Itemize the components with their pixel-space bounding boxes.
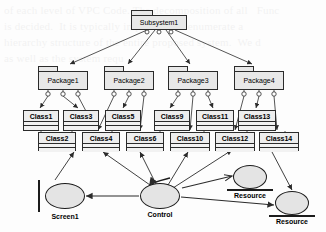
boundary-bar-icon <box>38 180 40 212</box>
class-operations-compartment <box>260 148 298 152</box>
class-node[interactable]: Class14 <box>259 132 299 151</box>
entity-bar-icon <box>227 189 273 191</box>
class-name: Class6 <box>127 133 163 144</box>
class-operations-compartment <box>83 148 119 152</box>
class-node[interactable]: Class11 <box>196 110 234 131</box>
class-operations-compartment <box>171 148 209 152</box>
class-node[interactable]: Class3 <box>63 110 99 131</box>
class-operations-compartment <box>239 126 275 130</box>
class-name: Class3 <box>64 111 98 122</box>
class-operations-compartment <box>39 148 75 152</box>
control-object-control[interactable] <box>140 183 180 209</box>
class-name: Class2 <box>39 133 75 144</box>
package-node[interactable]: Package2 <box>104 66 154 90</box>
entity-object-label: Resource <box>262 218 322 225</box>
subsystem-body: Subsystem1 <box>131 15 187 30</box>
subsystem-label: Subsystem1 <box>140 19 179 26</box>
class-operations-compartment <box>64 126 98 130</box>
package-label: Package3 <box>177 77 208 84</box>
package-node[interactable]: Package3 <box>168 66 218 90</box>
class-node[interactable]: Class13 <box>238 110 276 131</box>
class-name: Class1 <box>24 111 58 122</box>
package-node[interactable]: Package4 <box>234 66 284 90</box>
package-body: Package4 <box>234 71 284 90</box>
boundary-object-screen1[interactable] <box>45 183 85 209</box>
class-name: Class4 <box>83 133 119 144</box>
entity-object-resource[interactable] <box>233 165 267 189</box>
package-body: Package2 <box>104 71 154 90</box>
class-node[interactable]: Class10 <box>170 132 210 151</box>
class-node[interactable]: Class1 <box>23 110 59 131</box>
package-node[interactable]: Package1 <box>38 66 88 90</box>
class-name: Class14 <box>260 133 298 144</box>
class-node[interactable]: Class6 <box>126 132 164 151</box>
control-object-label: Control <box>130 211 190 218</box>
class-operations-compartment <box>106 126 140 130</box>
class-name: Class10 <box>171 133 209 144</box>
class-node[interactable]: Class12 <box>215 132 255 151</box>
package-label: Package1 <box>47 77 78 84</box>
class-operations-compartment <box>155 126 189 130</box>
package-label: Package2 <box>113 77 144 84</box>
boundary-object-label: Screen1 <box>35 213 95 220</box>
class-operations-compartment <box>216 148 254 152</box>
entity-object-resource[interactable] <box>275 191 309 215</box>
class-operations-compartment <box>24 126 58 130</box>
class-name: Class13 <box>239 111 275 122</box>
class-name: Class12 <box>216 133 254 144</box>
package-body: Package3 <box>168 71 218 90</box>
entity-object-label: Resource <box>220 192 280 199</box>
class-node[interactable]: Class9 <box>154 110 190 131</box>
package-body: Package1 <box>38 71 88 90</box>
class-node[interactable]: Class5 <box>105 110 141 131</box>
class-name: Class11 <box>197 111 233 122</box>
class-name: Class9 <box>155 111 189 122</box>
package-label: Package4 <box>243 77 274 84</box>
class-node[interactable]: Class2 <box>38 132 76 151</box>
uml-architecture-diagram: of each level of VPC Code. The decomposi… <box>0 0 326 232</box>
class-operations-compartment <box>197 126 233 130</box>
entity-bar-icon <box>269 215 315 217</box>
subsystem-node[interactable]: Subsystem1 <box>131 10 187 30</box>
class-node[interactable]: Class4 <box>82 132 120 151</box>
class-name: Class5 <box>106 111 140 122</box>
class-operations-compartment <box>127 148 163 152</box>
